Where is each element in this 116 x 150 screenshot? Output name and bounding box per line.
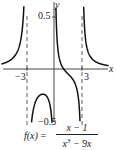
formula-equals: = bbox=[38, 130, 46, 141]
formula-lhs: f(x) = bbox=[24, 130, 46, 141]
den-rest: − 9x bbox=[70, 138, 91, 149]
curve-branch-3 bbox=[56, 7, 80, 121]
formula-fraction: x − 1 x3 − 9x bbox=[54, 122, 100, 147]
curve-branch-1 bbox=[1, 6, 24, 64]
x-axis-label: x bbox=[108, 63, 114, 74]
curve-branch-4 bbox=[84, 7, 109, 66]
function-formula: f(x) = x − 1 x3 − 9x bbox=[22, 122, 112, 150]
formula-fx: f(x) bbox=[24, 130, 38, 141]
tick-label-3: 3 bbox=[84, 71, 89, 82]
tick-label-pos-half: 0.5 bbox=[38, 10, 51, 21]
formula-denominator: x3 − 9x bbox=[54, 135, 100, 147]
tick-label-neg3: −3 bbox=[15, 71, 26, 82]
y-axis-label: y bbox=[54, 0, 60, 10]
formula-numerator: x − 1 bbox=[54, 122, 100, 134]
